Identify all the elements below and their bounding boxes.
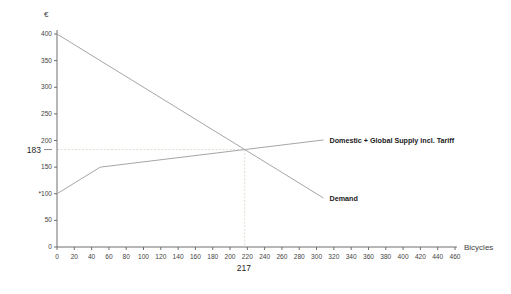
x-tick-label: 80	[123, 253, 130, 260]
demand-line	[57, 34, 323, 198]
equilibrium-price-label: 183	[27, 145, 41, 155]
supply-curve-label: Domestic + Global Supply incl. Tariff	[329, 136, 454, 145]
supply-demand-plot	[0, 0, 511, 294]
x-axis-title: Bicycles	[464, 243, 493, 252]
x-tick-label: 240	[259, 253, 270, 260]
supply-line	[57, 140, 323, 194]
x-tick-label: 280	[294, 253, 305, 260]
x-tick-label: 300	[311, 253, 322, 260]
x-tick-label: 20	[71, 253, 78, 260]
x-tick-label: 340	[346, 253, 357, 260]
y-tick-label: 50	[45, 216, 52, 223]
y-axis-title: €	[44, 10, 48, 19]
x-tick-label: 260	[276, 253, 287, 260]
x-tick-label: 360	[363, 253, 374, 260]
x-tick-label: 160	[190, 253, 201, 260]
y-tick-label: 200	[41, 137, 52, 144]
y-tick-label: 400	[41, 30, 52, 37]
chart-canvas: € Bicycles 183 217 Domestic + Global Sup…	[0, 0, 511, 294]
x-tick-label: 400	[398, 253, 409, 260]
y-tick-label: 250	[41, 110, 52, 117]
y-tick-label: 0	[48, 243, 52, 250]
y-tick-label: 150	[41, 163, 52, 170]
x-tick-label: 440	[432, 253, 443, 260]
equilibrium-quantity-label: 217	[237, 263, 251, 273]
x-tick-label: 180	[207, 253, 218, 260]
x-tick-label: 100	[138, 253, 149, 260]
y-tick-label: *100	[38, 190, 52, 197]
x-tick-label: 220	[242, 253, 253, 260]
y-tick-label: 300	[41, 83, 52, 90]
x-tick-label: 380	[380, 253, 391, 260]
y-tick-label: 350	[41, 57, 52, 64]
demand-curve-label: Demand	[329, 194, 357, 203]
x-tick-label: 60	[105, 253, 112, 260]
x-tick-label: 0	[55, 253, 59, 260]
x-tick-label: 320	[328, 253, 339, 260]
x-tick-label: 120	[155, 253, 166, 260]
x-tick-label: 40	[88, 253, 95, 260]
x-tick-label: 200	[225, 253, 236, 260]
x-tick-label: 140	[173, 253, 184, 260]
x-tick-label: 420	[415, 253, 426, 260]
x-tick-label: 460	[449, 253, 460, 260]
